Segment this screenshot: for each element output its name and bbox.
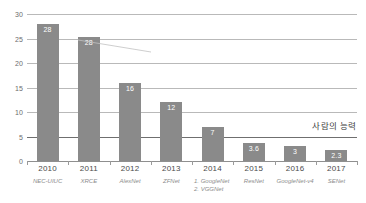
x-model-label: GoogleNet-v4 xyxy=(275,177,316,185)
x-category-label: 2016GoogleNet-v4 xyxy=(275,164,316,185)
x-model-label: 1. GoogleNet2. VGGNet xyxy=(192,177,233,193)
x-model-label: ZFNet xyxy=(151,177,192,185)
y-tick-label: 10 xyxy=(15,109,23,116)
human-performance-label: 사람의 능력 xyxy=(312,119,356,131)
error-rate-bar-chart: 051015202530 2828161273.632.3 2010NEC-UI… xyxy=(0,0,366,203)
bar-value-label: 28 xyxy=(44,26,52,33)
x-category-label: 2012AlexNet xyxy=(110,164,151,185)
y-tick-label: 30 xyxy=(15,11,23,18)
x-category-label: 2011XRCE xyxy=(68,164,109,185)
y-tick-label: 20 xyxy=(15,60,23,67)
x-category-label: 2015ResNet xyxy=(233,164,274,185)
x-category-label: 2013ZFNet xyxy=(151,164,192,185)
bar[interactable]: 3 xyxy=(284,146,306,161)
x-model-label: NEC-UIUC xyxy=(27,177,68,185)
x-year-label: 2011 xyxy=(68,164,109,173)
bar-value-label: 3.6 xyxy=(249,145,259,152)
bar-slot: 16 xyxy=(110,14,151,161)
bar-value-label: 12 xyxy=(167,104,175,111)
y-tick-label: 5 xyxy=(19,133,23,140)
y-tick-label: 25 xyxy=(15,35,23,42)
bar-slot: 7 xyxy=(192,14,233,161)
bar[interactable]: 2.3 xyxy=(325,150,347,161)
bar-value-label: 2.3 xyxy=(331,152,341,159)
x-year-label: 2015 xyxy=(233,164,274,173)
x-model-label-line: 1. GoogleNet xyxy=(194,177,233,185)
bar[interactable]: 7 xyxy=(202,127,224,161)
y-tick-label: 15 xyxy=(15,84,23,91)
bar-value-label: 16 xyxy=(126,85,134,92)
x-category-label: 2017SENet xyxy=(316,164,357,185)
plot-area: 051015202530 2828161273.632.3 xyxy=(27,14,357,161)
x-year-label: 2017 xyxy=(316,164,357,173)
bar-slot: 12 xyxy=(151,14,192,161)
x-year-label: 2010 xyxy=(27,164,68,173)
x-model-label-line: XRCE xyxy=(68,177,109,185)
bar-slot: 3.6 xyxy=(233,14,274,161)
x-year-label: 2012 xyxy=(110,164,151,173)
x-axis-labels: 2010NEC-UIUC2011XRCE2012AlexNet2013ZFNet… xyxy=(27,164,357,203)
x-model-label-line: SENet xyxy=(316,177,357,185)
bar-value-label: 7 xyxy=(211,129,215,136)
bar-slot: 2.3 xyxy=(316,14,357,161)
bar-series: 2828161273.632.3 xyxy=(27,14,357,161)
bar[interactable]: 16 xyxy=(119,83,141,161)
x-year-label: 2016 xyxy=(275,164,316,173)
x-model-label-line: NEC-UIUC xyxy=(27,177,68,185)
x-category-label: 20141. GoogleNet2. VGGNet xyxy=(192,164,233,193)
bar-slot: 28 xyxy=(68,14,109,161)
x-model-label-line: ResNet xyxy=(233,177,274,185)
bar[interactable]: 3.6 xyxy=(243,143,265,161)
bar-slot: 3 xyxy=(275,14,316,161)
x-model-label-line: 2. VGGNet xyxy=(194,185,233,193)
x-model-label-line: GoogleNet-v4 xyxy=(275,177,316,185)
x-axis-tick xyxy=(357,161,358,165)
y-tick-label: 0 xyxy=(19,158,23,165)
bar-slot: 28 xyxy=(27,14,68,161)
bar[interactable]: 28 xyxy=(37,24,59,161)
x-year-label: 2013 xyxy=(151,164,192,173)
bar[interactable]: 12 xyxy=(160,102,182,161)
bar[interactable]: 28 xyxy=(78,37,100,161)
x-model-label: XRCE xyxy=(68,177,109,185)
x-model-label: SENet xyxy=(316,177,357,185)
bar-value-label: 3 xyxy=(293,148,297,155)
x-year-label: 2014 xyxy=(192,164,233,173)
bar-value-label: 28 xyxy=(85,39,93,46)
x-model-label-line: AlexNet xyxy=(110,177,151,185)
x-category-label: 2010NEC-UIUC xyxy=(27,164,68,185)
x-model-label-line: ZFNet xyxy=(151,177,192,185)
x-model-label: ResNet xyxy=(233,177,274,185)
x-model-label: AlexNet xyxy=(110,177,151,185)
